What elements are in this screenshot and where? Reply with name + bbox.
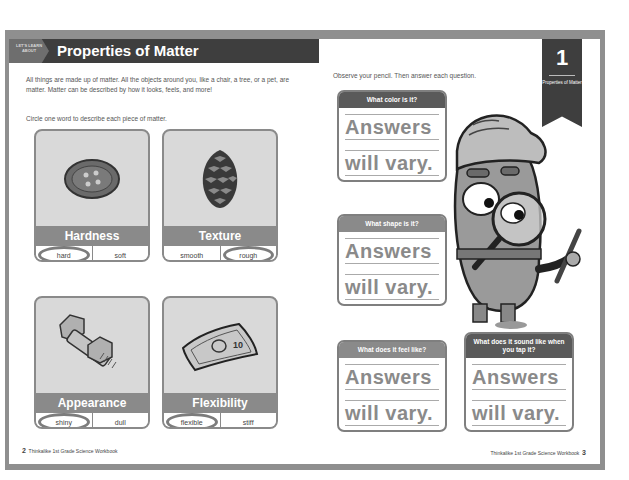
lets-learn-about-tag: LET'S LEARN ABOUT — [9, 39, 49, 63]
option-flexible[interactable]: flexible — [164, 413, 221, 429]
card-options: flexible stiff — [164, 413, 276, 429]
card-title: Appearance — [36, 393, 148, 413]
footer-right: Thinkalike 1st Grade Science Workbook 3 — [490, 449, 586, 456]
page-number-right: 3 — [582, 449, 586, 456]
option-smooth[interactable]: smooth — [164, 246, 221, 262]
question-label: What shape is it? — [339, 216, 445, 232]
svg-text:10: 10 — [233, 340, 243, 350]
answer-line-2: will vary. — [345, 274, 439, 300]
option-hard[interactable]: hard — [36, 246, 93, 262]
card-title: Hardness — [36, 226, 148, 246]
question-label: What does it sound like when you tap it? — [466, 334, 572, 358]
answer-line-1: Answers — [345, 114, 439, 140]
chapter-number: 1 — [542, 39, 582, 71]
card-title: Flexibility — [164, 393, 276, 413]
property-card-hardness: Hardness hard soft — [34, 129, 150, 262]
answer-line-1: Answers — [472, 364, 566, 390]
answer-area[interactable]: Answers will vary. — [339, 108, 445, 180]
answer-line-1: Answers — [345, 238, 439, 264]
question-label: What does it feel like? — [339, 342, 445, 358]
question-label: What color is it? — [339, 92, 445, 108]
property-card-flexibility: 10 Flexibility flexible stiff — [162, 296, 278, 429]
page-header: LET'S LEARN ABOUT Properties of Matter — [9, 39, 319, 63]
card-options: shiny dull — [36, 413, 148, 429]
question-box-sound: What does it sound like when you tap it?… — [464, 332, 574, 432]
option-soft[interactable]: soft — [93, 246, 149, 262]
explorer-with-magnifying-glass-icon — [439, 99, 589, 333]
question-box-color: What color is it? Answers will vary. — [337, 90, 447, 182]
observe-instruction: Observe your pencil. Then answer each qu… — [333, 72, 476, 79]
option-rough[interactable]: rough — [221, 246, 277, 262]
option-dull[interactable]: dull — [93, 413, 149, 429]
intro-paragraph: All things are made up of matter. All th… — [26, 75, 306, 95]
instruction-text: Circle one word to describe each piece o… — [26, 115, 167, 122]
answer-area[interactable]: Answers will vary. — [339, 232, 445, 304]
card-options: smooth rough — [164, 246, 276, 262]
property-card-appearance: Appearance shiny dull — [34, 296, 150, 429]
property-card-texture: Texture smooth rough — [162, 129, 278, 262]
dollar-bill-icon: 10 — [164, 298, 276, 393]
ribbon-divider — [549, 75, 575, 76]
answer-line-1: Answers — [345, 364, 439, 390]
bolt-icon — [36, 298, 148, 393]
card-title: Texture — [164, 226, 276, 246]
page-title: Properties of Matter — [57, 42, 199, 59]
option-stiff[interactable]: stiff — [221, 413, 277, 429]
button-icon — [36, 131, 148, 226]
pinecone-icon — [164, 131, 276, 226]
answer-line-2: will vary. — [345, 150, 439, 176]
question-box-shape: What shape is it? Answers will vary. — [337, 214, 447, 306]
answer-line-2: will vary. — [345, 400, 439, 426]
footer-left-text: Thinkalike 1st Grade Science Workbook — [29, 448, 118, 454]
footer-left: 2 Thinkalike 1st Grade Science Workbook — [22, 447, 117, 454]
answer-area[interactable]: Answers will vary. — [339, 358, 445, 430]
question-box-feel: What does it feel like? Answers will var… — [337, 340, 447, 432]
option-shiny[interactable]: shiny — [36, 413, 93, 429]
chapter-label: Properties of Matter — [542, 80, 582, 86]
answer-line-2: will vary. — [472, 400, 566, 426]
workbook-spread: LET'S LEARN ABOUT Properties of Matter A… — [9, 39, 600, 464]
footer-right-text: Thinkalike 1st Grade Science Workbook — [490, 450, 579, 456]
page-number-left: 2 — [22, 447, 26, 454]
card-options: hard soft — [36, 246, 148, 262]
answer-area[interactable]: Answers will vary. — [466, 358, 572, 430]
